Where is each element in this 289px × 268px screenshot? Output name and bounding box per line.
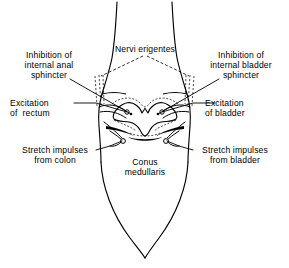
cord-enlargement-edges xyxy=(102,93,187,95)
label-stretch-impulses-from-bladder: Stretch impulses from bladder xyxy=(186,145,284,165)
label-nervi-erigentes: Nervi erigentes xyxy=(92,44,198,54)
label-inhibition-internal-anal-sphincter: Inhibition of internal anal sphincter xyxy=(6,50,92,81)
diagram-canvas xyxy=(0,0,289,268)
nervi-erigentes-leaders xyxy=(101,56,189,76)
label-stretch-impulses-from-colon: Stretch impulses from colon xyxy=(6,145,104,165)
anatomy-figure: Nervi erigentes Inhibition of internal a… xyxy=(0,0,289,268)
label-excitation-of-rectum: Excitation of rectum xyxy=(10,98,90,118)
label-inhibition-internal-bladder-sphincter: Inhibition of internal bladder sphincter xyxy=(196,50,286,81)
label-excitation-of-bladder: Excitation of bladder xyxy=(205,98,285,118)
label-conus-medullaris: Conus medullaris xyxy=(106,157,184,177)
